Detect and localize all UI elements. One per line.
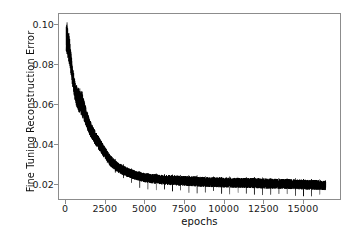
x-tick-mark <box>184 200 185 204</box>
y-tick-label: 0.04 <box>32 138 54 149</box>
x-tick-mark <box>263 200 264 204</box>
y-tick-label: 0.02 <box>32 178 54 189</box>
x-tick-label: 0 <box>62 203 68 214</box>
y-tick-label: 0.06 <box>32 98 54 109</box>
x-tick-mark <box>105 200 106 204</box>
loss-curve-canvas <box>59 14 340 199</box>
y-tick-label: 0.08 <box>32 58 54 69</box>
y-tick-mark <box>54 184 58 185</box>
x-tick-label: 10000 <box>208 203 239 214</box>
x-tick-label: 2500 <box>92 203 117 214</box>
x-tick-label: 5000 <box>132 203 157 214</box>
y-tick-mark <box>54 104 58 105</box>
y-tick-mark <box>54 24 58 25</box>
x-tick-label: 7500 <box>172 203 197 214</box>
x-tick-mark <box>303 200 304 204</box>
y-tick-label: 0.10 <box>32 18 54 29</box>
y-tick-mark <box>54 144 58 145</box>
figure: 0.020.040.060.080.10 0250050007500100001… <box>0 0 356 242</box>
x-tick-label: 15000 <box>288 203 319 214</box>
x-axis-title: epochs <box>58 216 341 227</box>
x-tick-mark <box>65 200 66 204</box>
x-tick-mark <box>144 200 145 204</box>
y-axis-title: Fine Tuning Reconstruction Error <box>25 17 36 207</box>
x-tick-mark <box>224 200 225 204</box>
y-tick-mark <box>54 64 58 65</box>
x-tick-label: 12500 <box>248 203 279 214</box>
plot-area <box>58 13 341 200</box>
